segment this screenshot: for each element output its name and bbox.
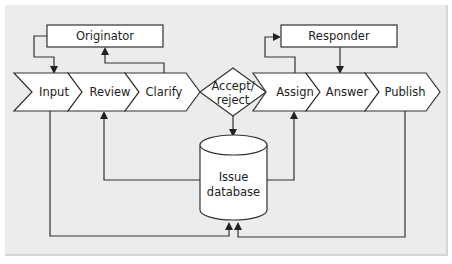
issue-database-cylinder: Issue database [200, 135, 267, 220]
decision-label-line2: reject [217, 93, 250, 107]
clarify-label: Clarify [146, 85, 183, 99]
decision-label-line1: Accept/ [211, 79, 254, 93]
issue-flow-diagram: Originator Responder Input Review Clarif… [0, 0, 452, 264]
originator-label: Originator [76, 29, 134, 43]
originator-box: Originator [47, 25, 163, 47]
publish-label: Publish [385, 85, 426, 99]
database-to-assign-arrow [267, 115, 294, 180]
responder-label: Responder [308, 29, 370, 43]
database-label-line1: Issue [219, 170, 249, 184]
review-label: Review [89, 85, 130, 99]
clarify-to-originator-arrow [105, 51, 164, 73]
input-label: Input [39, 85, 69, 99]
answer-label: Answer [326, 85, 369, 99]
responder-box: Responder [281, 25, 397, 47]
database-to-review-arrow [104, 115, 200, 180]
database-label-line2: database [207, 185, 260, 199]
assign-label: Assign [276, 85, 314, 99]
